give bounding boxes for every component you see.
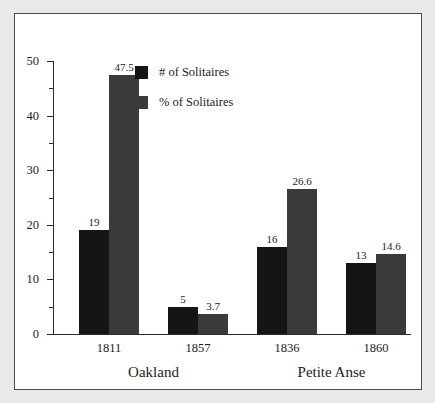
legend-item[interactable]: % of Solitaires	[135, 87, 233, 117]
category-label: 1836	[275, 341, 300, 356]
category-label: 1811	[97, 341, 122, 356]
y-axis-tick-label: 0	[33, 327, 39, 342]
bar[interactable]: 5	[168, 307, 198, 334]
group-label: Petite Anse	[298, 364, 366, 381]
bar[interactable]: 19	[79, 230, 109, 334]
legend-item[interactable]: # of Solitaires	[135, 57, 233, 87]
y-axis-tick-minor	[49, 143, 54, 144]
legend-swatch-icon	[135, 66, 148, 79]
bar-value-label: 5	[180, 294, 186, 305]
bar-value-label: 3.7	[206, 301, 220, 312]
y-axis-tick-major: 0	[47, 334, 54, 335]
category-label: 1857	[186, 341, 211, 356]
chart-card: 01020304050 1947.553.71626.61314.63837.7…	[14, 13, 422, 390]
y-axis-tick-major: 10	[47, 279, 54, 280]
bar[interactable]: 3.7	[198, 314, 228, 334]
bar-value-label: 26.6	[292, 176, 311, 187]
x-axis-line	[53, 334, 411, 335]
chart-figure: 01020304050 1947.553.71626.61314.63837.7…	[0, 0, 435, 403]
y-axis-tick-label: 10	[27, 272, 40, 287]
bar[interactable]: 13	[346, 263, 376, 334]
bar-value-label: 13	[356, 250, 367, 261]
y-axis-tick-label: 40	[27, 108, 40, 123]
y-axis-tick-minor	[49, 198, 54, 199]
bar-value-label: 19	[89, 217, 100, 228]
bar-value-label: 47.5	[114, 62, 133, 73]
bar[interactable]: 14.6	[376, 254, 406, 334]
legend-label: % of Solitaires	[159, 95, 233, 110]
y-axis-tick-minor	[49, 252, 54, 253]
y-axis-tick-major: 20	[47, 225, 54, 226]
bar-value-label: 14.6	[381, 241, 400, 252]
y-axis-tick-minor	[49, 307, 54, 308]
legend-swatch-icon	[135, 96, 148, 109]
bar[interactable]: 26.6	[287, 189, 317, 334]
y-axis-tick-minor	[49, 88, 54, 89]
category-label: 1860	[364, 341, 389, 356]
y-axis-tick-label: 30	[27, 163, 40, 178]
group-label: Oakland	[128, 364, 179, 381]
y-axis-tick-major: 30	[47, 170, 54, 171]
y-axis-tick-major: 40	[47, 116, 54, 117]
legend-label: # of Solitaires	[159, 65, 229, 80]
y-axis-tick-label: 20	[27, 217, 40, 232]
y-axis-tick-label: 50	[27, 54, 40, 69]
bar-value-label: 16	[267, 234, 278, 245]
chart-legend: # of Solitaires% of Solitaires	[135, 57, 233, 117]
y-axis-tick-major: 50	[47, 61, 54, 62]
bar[interactable]: 16	[257, 247, 287, 334]
